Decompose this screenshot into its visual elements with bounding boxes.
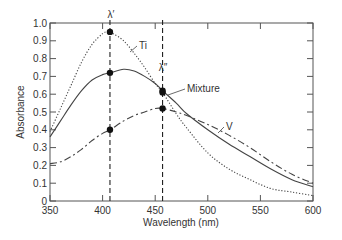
- mixture-label: Mixture: [187, 83, 220, 94]
- y-tick-label: 0.9: [33, 35, 47, 46]
- data-point-marker: [107, 70, 113, 76]
- x-tick-label: 450: [147, 205, 164, 216]
- x-tick-label: 350: [42, 205, 59, 216]
- lambda-prime-label: λ′: [108, 9, 115, 20]
- x-axis-ticks: 350400450500550600: [42, 23, 322, 216]
- y-tick-label: 0.5: [33, 107, 47, 118]
- axes: [50, 23, 313, 201]
- v-label: V: [226, 121, 233, 132]
- plot-frame: [50, 23, 313, 201]
- x-tick-label: 600: [305, 205, 322, 216]
- y-axis-label: Absorbance: [15, 85, 26, 139]
- data-point-marker: [107, 29, 113, 35]
- ti-label: Ti: [139, 40, 147, 51]
- x-tick-label: 500: [199, 205, 216, 216]
- series-ti-line: [50, 32, 313, 196]
- y-tick-label: 0.2: [33, 160, 47, 171]
- v-label-leader: [218, 127, 224, 133]
- y-tick-label: 0.6: [33, 89, 47, 100]
- x-tick-label: 400: [94, 205, 111, 216]
- series-v-line: [50, 108, 313, 183]
- data-point-marker: [159, 89, 165, 95]
- x-axis-label: Wavelength (nm): [143, 217, 219, 228]
- data-series: [50, 32, 313, 196]
- absorbance-chart: 00.10.20.30.40.50.60.70.80.91.0 35040045…: [0, 0, 342, 240]
- y-axis-ticks: 00.10.20.30.40.50.60.70.80.91.0: [33, 18, 313, 207]
- series-mixture-line: [50, 69, 313, 187]
- y-tick-label: 0.3: [33, 142, 47, 153]
- x-tick-label: 550: [252, 205, 269, 216]
- y-tick-label: 0.4: [33, 124, 47, 135]
- y-tick-label: 0.7: [33, 71, 47, 82]
- y-tick-label: 1.0: [33, 18, 47, 29]
- y-tick-label: 0.1: [33, 178, 47, 189]
- data-markers: [107, 29, 166, 133]
- y-tick-label: 0.8: [33, 53, 47, 64]
- lambda-double-prime-label: λ″: [159, 62, 168, 73]
- data-point-marker: [107, 127, 113, 133]
- mixture-label-leader: [168, 89, 185, 95]
- data-point-marker: [159, 105, 165, 111]
